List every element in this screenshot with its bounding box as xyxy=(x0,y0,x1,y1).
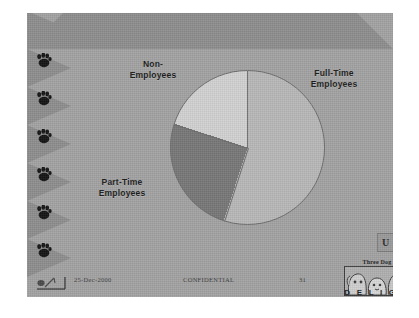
screenshot-canvas: Non- Employees Full-Time Employees Part-… xyxy=(0,0,419,318)
top-decorative-band xyxy=(27,13,393,49)
pie-label-full-time-employees: Full-Time Employees xyxy=(291,68,377,90)
paw-print-icon xyxy=(36,167,52,182)
footer-date: 25-Dec-2000 xyxy=(74,276,112,283)
underline-button[interactable]: U xyxy=(377,233,393,252)
three-dog-delight-logo: Three Dog D E L I G H T xyxy=(340,259,393,297)
pie-label-part-time-line2: Employees xyxy=(79,188,165,199)
pie-label-part-time-line1: Part-Time xyxy=(79,177,165,188)
logo-title: Three Dog xyxy=(340,259,393,265)
footer-classification: CONFIDENTIAL xyxy=(183,276,234,283)
bone-mark-icon xyxy=(35,275,77,293)
presentation-slide: Non- Employees Full-Time Employees Part-… xyxy=(27,13,393,297)
pie-label-non-employees-line1: Non- xyxy=(113,59,193,70)
pie-label-non-employees-line2: Employees xyxy=(113,70,193,81)
logo-subtitle: D E L I G H T xyxy=(340,288,393,297)
pie-label-non-employees: Non- Employees xyxy=(113,59,193,81)
paw-print-icon xyxy=(36,205,52,220)
left-decorative-band xyxy=(27,13,71,297)
pie-label-part-time-employees: Part-Time Employees xyxy=(79,177,165,199)
paw-print-icon xyxy=(36,129,52,144)
top-band-right-corner-cut xyxy=(357,13,393,49)
paw-print-icon xyxy=(36,243,52,258)
pie-chart[interactable] xyxy=(170,70,325,225)
paw-print-icon xyxy=(36,53,52,68)
pie-label-full-time-line2: Employees xyxy=(291,79,377,90)
sawtooth-shape xyxy=(27,13,71,49)
footer-page-number: 31 xyxy=(299,276,306,283)
pie-label-full-time-line1: Full-Time xyxy=(291,68,377,79)
paw-print-icon xyxy=(36,91,52,106)
pie-slice-divider xyxy=(247,71,248,148)
